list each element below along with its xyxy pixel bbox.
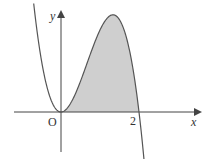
- x-axis-label: x: [190, 115, 197, 129]
- y-axis-label: y: [49, 9, 56, 23]
- graph-figure: O x y 2: [0, 0, 210, 159]
- origin-label: O: [48, 115, 57, 129]
- x-tick-2-label: 2: [130, 114, 136, 128]
